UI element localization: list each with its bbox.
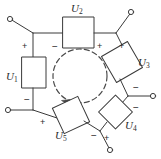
- terminal-bottom: [107, 147, 112, 152]
- wire-u3-to-node-right: [120, 79, 128, 96]
- sign-u5-minus: −: [91, 131, 97, 141]
- sign-u3-plus: +: [119, 42, 124, 51]
- sign-u3-minus: −: [133, 83, 139, 93]
- terminal-top-left: [7, 16, 12, 21]
- label-u5: U5: [55, 130, 67, 142]
- label-u3: U3: [138, 57, 150, 69]
- sign-u5-plus: +: [40, 118, 45, 127]
- sign-u4-plus: +: [104, 134, 109, 143]
- sign-u2-plus: +: [97, 42, 102, 51]
- lead-top-right: [116, 14, 130, 33]
- terminal-left: [5, 107, 10, 112]
- terminal-right: [150, 93, 155, 98]
- label-u1: U1: [6, 71, 18, 83]
- element-u2-box: [63, 17, 94, 48]
- sign-u1-minus: −: [24, 95, 30, 105]
- terminal-top-right: [128, 9, 133, 14]
- current-loop-dashed-circle: [53, 49, 107, 103]
- sign-u4-minus: −: [133, 103, 139, 113]
- circuit-figure: U1 U2 U3 U4 U5 + − − + + − − + + −: [0, 0, 161, 159]
- label-u2: U2: [71, 3, 83, 15]
- wire-u4-to-node-bottom: [100, 122, 107, 131]
- circuit-schematic-canvas: [0, 0, 161, 159]
- element-u1-box: [22, 57, 46, 88]
- label-u4: U4: [125, 120, 137, 132]
- sign-u1-plus: +: [22, 42, 27, 51]
- lead-top-left: [12, 20, 33, 33]
- sign-u2-minus: −: [52, 42, 58, 52]
